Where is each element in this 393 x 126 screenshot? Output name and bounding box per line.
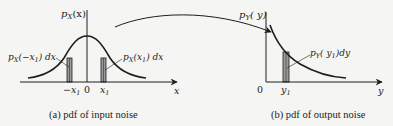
panel-a-input-noise: pX(x) pX(−x1) dx pX(x1) dx −x1 0 x1 x (a… xyxy=(8,8,180,121)
y-axis-label-px: pX(x) xyxy=(61,8,86,21)
tick-neg-x1: −x1 xyxy=(63,84,80,97)
origin-label: 0 xyxy=(257,84,263,95)
y-axis-label-py: pY( y) xyxy=(239,9,267,22)
tick-pos-x1: x1 xyxy=(100,84,110,97)
caption-b: (b) pdf of output noise xyxy=(271,109,366,121)
output-area-label: pY( y1)dy xyxy=(310,48,351,60)
caption-a: (a) pdf of input noise xyxy=(49,109,138,121)
tick-y1: y1 xyxy=(280,84,291,97)
left-area-label: pX(−x1) dx xyxy=(8,52,56,64)
noise-pdf-diagram: pX(x) pX(−x1) dx pX(x1) dx −x1 0 x1 x (a… xyxy=(0,0,393,126)
x-axis-label-b: y xyxy=(377,85,384,96)
x-axis-label: x xyxy=(174,85,180,96)
panel-b-output-noise: pY( y) pY( y1)dy 0 y1 y (b) pdf of outpu… xyxy=(239,9,384,121)
right-area-label: pX(x1) dx xyxy=(123,52,163,64)
tick-zero: 0 xyxy=(84,84,90,95)
